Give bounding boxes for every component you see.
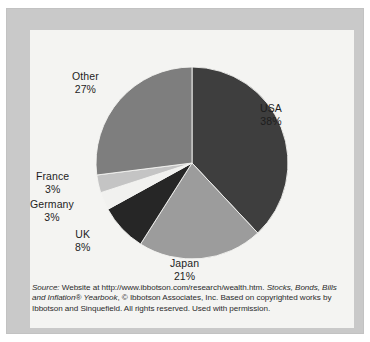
source-caption-line-3: Ibbotson and Sinquefield. All rights res… <box>32 304 350 314</box>
screenshot-root: Other 27% USA 38% France 3% Germany 3% U… <box>0 0 370 342</box>
source-line2-text: , © Ibbotson Associates, Inc. Based on c… <box>117 293 331 302</box>
slice-label-germany-name: Germany <box>30 198 74 210</box>
slice-label-uk-name: UK <box>75 228 90 240</box>
source-caption-line-1: Source: Website at http://www.ibbotson.c… <box>32 283 350 293</box>
source-caption: Source: Website at http://www.ibbotson.c… <box>32 283 350 314</box>
slice-label-france-name: France <box>36 170 69 182</box>
slice-label-france: France 3% <box>36 170 69 195</box>
pie-slice-other <box>96 67 192 175</box>
source-line1-text: Website at http://www.ibbotson.com/resea… <box>60 283 267 292</box>
slice-label-usa: USA 38% <box>260 102 282 127</box>
slice-label-japan: Japan 21% <box>170 257 199 282</box>
source-caption-line-2: and Inflation® Yearbook, © Ibbotson Asso… <box>32 293 350 303</box>
slice-label-japan-name: Japan <box>170 257 199 269</box>
slice-label-germany-value: 3% <box>30 211 74 224</box>
source-registered-mark: ® <box>75 293 83 302</box>
source-title-part3: Yearbook <box>84 293 118 302</box>
slice-label-germany: Germany 3% <box>30 198 74 223</box>
slice-label-other-name: Other <box>72 70 99 82</box>
slice-label-france-value: 3% <box>36 183 69 196</box>
pie-slice-group <box>96 67 288 259</box>
chart-panel: Other 27% USA 38% France 3% Germany 3% U… <box>30 30 354 328</box>
slice-label-usa-value: 38% <box>260 115 282 128</box>
slice-label-other-value: 27% <box>72 83 99 96</box>
slice-label-other: Other 27% <box>72 70 99 95</box>
slice-label-uk-value: 8% <box>75 241 90 254</box>
source-title-part1: Stocks, Bonds, Bills <box>267 283 337 292</box>
source-title-part2: and Inflation <box>32 293 75 302</box>
slice-label-uk: UK 8% <box>75 228 90 253</box>
figure-outer-frame: Other 27% USA 38% France 3% Germany 3% U… <box>6 8 364 334</box>
slice-label-japan-value: 21% <box>170 270 199 283</box>
source-label: Source: <box>32 283 60 292</box>
slice-label-usa-name: USA <box>260 102 282 114</box>
